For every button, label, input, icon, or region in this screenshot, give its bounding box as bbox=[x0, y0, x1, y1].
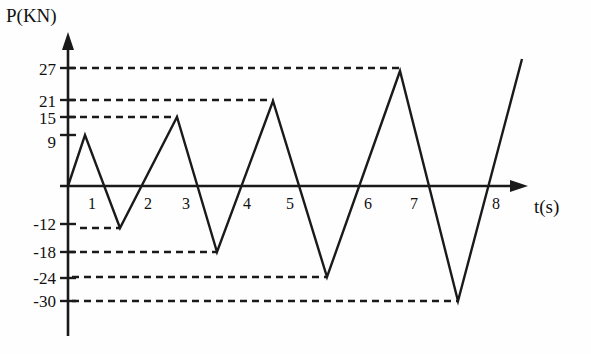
y-tick-label-neg18: -18 bbox=[33, 243, 56, 262]
figure-container: P(KN) t(s) 27 21 15 9 -12 -18 -24 -30 bbox=[0, 0, 591, 354]
x-tick-label-8: 8 bbox=[492, 195, 500, 212]
x-tick-label-3: 3 bbox=[182, 195, 190, 212]
x-tick-label-6: 6 bbox=[364, 195, 372, 212]
y-tick-label-9: 9 bbox=[48, 133, 57, 152]
y-tick-label-neg12: -12 bbox=[33, 215, 56, 234]
x-tick-label-1: 1 bbox=[88, 195, 96, 212]
x-tick-label-4: 4 bbox=[243, 195, 251, 212]
x-axis-title: t(s) bbox=[534, 196, 559, 218]
x-tick-label-2: 2 bbox=[144, 195, 152, 212]
y-axis-title: P(KN) bbox=[6, 5, 57, 27]
y-tick-label-neg24: -24 bbox=[33, 269, 56, 288]
waveform-polyline bbox=[68, 59, 522, 301]
x-tick-label-7: 7 bbox=[410, 195, 418, 212]
y-tick-label-15: 15 bbox=[39, 109, 56, 128]
x-tick-label-5: 5 bbox=[286, 195, 294, 212]
y-axis-arrow-icon bbox=[62, 32, 74, 50]
y-tick-label-27: 27 bbox=[39, 60, 57, 79]
x-axis-arrow-icon bbox=[510, 180, 528, 192]
y-tick-label-neg30: -30 bbox=[33, 292, 56, 311]
load-time-chart: P(KN) t(s) 27 21 15 9 -12 -18 -24 -30 bbox=[0, 0, 591, 354]
